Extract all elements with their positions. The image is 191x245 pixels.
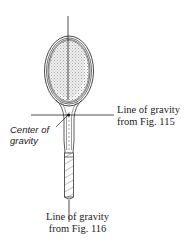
label-line-116-line1: Line of gravity: [46, 211, 109, 223]
center-of-gravity-dot: [67, 114, 70, 117]
center-leader-line: [56, 116, 67, 127]
label-line-116: Line of gravity from Fig. 116: [46, 211, 109, 235]
label-center-line1: Center of: [10, 124, 49, 135]
label-line-115-line1: Line of gravity: [117, 104, 180, 116]
label-line-115-line2: from Fig. 115: [117, 116, 180, 128]
racket-head: [45, 36, 94, 106]
label-line-116-line2: from Fig. 116: [46, 223, 109, 235]
label-center-line2: gravity: [10, 135, 49, 146]
label-center-of-gravity: Center of gravity: [10, 124, 49, 146]
label-line-115: Line of gravity from Fig. 115: [117, 104, 180, 128]
racket-shaft: [64, 112, 74, 153]
racket-grip: [65, 153, 74, 199]
